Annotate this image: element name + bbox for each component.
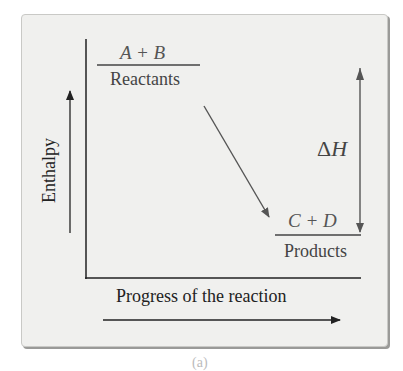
products-label: Products <box>284 241 347 262</box>
reactants-formula: A + B <box>120 42 165 64</box>
reaction-arrow <box>204 106 269 217</box>
reactants-label: Reactants <box>110 69 180 90</box>
x-axis-label: Progress of the reaction <box>116 286 286 307</box>
delta-h-arrow-top-head <box>356 68 364 80</box>
products-formula: C + D <box>288 210 337 232</box>
delta-symbol: Δ <box>317 136 331 161</box>
h-variable: H <box>331 136 347 161</box>
delta-h-label: ΔH <box>317 136 347 162</box>
figure-caption: (a) <box>192 355 208 371</box>
y-axis-label: Enthalpy <box>39 138 60 203</box>
